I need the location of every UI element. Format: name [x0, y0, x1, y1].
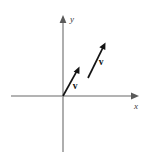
vector-v-origin: v [63, 67, 80, 97]
vector-v-origin-label: v [73, 81, 78, 91]
x-axis-group: x [11, 93, 139, 111]
figure-canvas: x y v v [0, 0, 152, 161]
vector-v-translated: v [88, 43, 106, 79]
y-axis-arrowhead [60, 15, 67, 23]
x-axis-label: x [133, 101, 138, 111]
vector-v-translated-label: v [99, 57, 104, 67]
x-axis-arrowhead [131, 93, 139, 100]
y-axis-label: y [69, 14, 74, 24]
vector-diagram-figure: x y v v [0, 0, 152, 161]
